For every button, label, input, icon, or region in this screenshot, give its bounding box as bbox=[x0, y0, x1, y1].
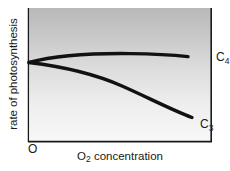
x-axis-title-rest: concentration bbox=[91, 150, 163, 162]
series-label-c3-main: C bbox=[200, 117, 209, 131]
x-axis-title-sub: 2 bbox=[86, 154, 91, 164]
series-label-c4: C4 bbox=[216, 50, 230, 66]
photosynthesis-oxygen-chart: rate of photosynthesis C4 bbox=[0, 0, 230, 171]
x-axis-title: O2 concentration bbox=[28, 150, 212, 162]
plot-area-background bbox=[28, 8, 212, 142]
series-label-c4-main: C bbox=[216, 50, 225, 64]
x-axis-title-main: O bbox=[77, 150, 86, 162]
series-label-c3-sub: 3 bbox=[209, 123, 214, 133]
series-label-c4-sub: 4 bbox=[225, 56, 230, 66]
